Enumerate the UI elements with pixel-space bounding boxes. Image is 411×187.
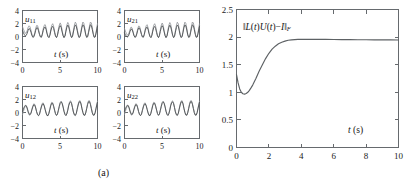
u21-curve-reference <box>125 25 200 38</box>
u21-ytick-m2: −2 <box>112 46 121 55</box>
u11-curve-reference <box>23 25 98 38</box>
u12-ytick-2: 2 <box>15 96 19 105</box>
u11-xtick-10: 10 <box>94 66 102 75</box>
figure-root: 4 2 0 −2 −4 0 5 10 u11 t (s) <box>0 0 411 187</box>
panelb-xtick-0: 0 <box>234 151 239 161</box>
subplot-u12: 4 2 0 −2 −4 0 5 10 u12 t (s) <box>2 80 102 156</box>
u22-ytick-m2: −2 <box>112 122 121 131</box>
u12-ytick-4: 4 <box>15 83 19 92</box>
u21-ytick-4: 4 <box>117 7 121 16</box>
subplot-u22: 4 2 0 −2 −4 0 5 10 u22 t (s) <box>104 80 204 156</box>
lu-residual-curve <box>237 39 399 94</box>
panelb-ytick-0: 0 <box>229 143 234 153</box>
u11-ytick-4: 4 <box>15 7 19 16</box>
subplot-u22-axes: 4 2 0 −2 −4 0 5 10 <box>104 80 204 156</box>
u11-ytick-m4: −4 <box>10 59 19 68</box>
subplot-u21: 4 2 0 −2 −4 0 5 10 u21 t (s) <box>104 4 204 80</box>
u22-xtick-10: 10 <box>196 142 204 151</box>
u11-ytick-2: 2 <box>15 20 19 29</box>
subplot-u22-xlabel: t (s) <box>156 126 170 135</box>
u12-xtick-10: 10 <box>94 142 102 151</box>
u12-xtick-0: 0 <box>21 142 25 151</box>
u22-ytick-0: 0 <box>117 109 121 118</box>
subplot-u12-axes: 4 2 0 −2 −4 0 5 10 <box>2 80 102 156</box>
u21-ytick-2: 2 <box>117 20 121 29</box>
panelb-xtick-10: 10 <box>394 151 404 161</box>
panelb-ytick-1: 1 <box>229 88 234 98</box>
subplot-u11-axes: 4 2 0 −2 −4 0 5 10 <box>2 4 102 80</box>
u22-xtick-0: 0 <box>123 142 127 151</box>
panelb-xtick-6: 6 <box>331 151 336 161</box>
u12-xtick-5: 5 <box>58 142 62 151</box>
panelb-ytick-2p5: 2.5 <box>222 5 234 15</box>
subplot-u12-xlabel: t (s) <box>54 126 68 135</box>
panelb-ytick-1p5: 1.5 <box>222 60 234 70</box>
u21-xtick-5: 5 <box>160 66 164 75</box>
panelb-ytick-0p5: 0.5 <box>222 115 234 125</box>
panelb-xtick-8: 8 <box>364 151 369 161</box>
panel-b-xlabel: t (s) <box>348 126 363 136</box>
panel-a-caption: (a) <box>0 168 207 178</box>
u21-ytick-0: 0 <box>117 33 121 42</box>
panel-a: 4 2 0 −2 −4 0 5 10 u11 t (s) <box>0 0 207 187</box>
u22-ytick-m4: −4 <box>112 135 121 144</box>
panelb-xtick-4: 4 <box>299 151 304 161</box>
subplot-u11-xlabel: t (s) <box>54 50 68 59</box>
u21-xtick-10: 10 <box>196 66 204 75</box>
subplot-u21-axes: 4 2 0 −2 −4 0 5 10 <box>104 4 204 80</box>
panelb-ytick-2: 2 <box>229 32 234 42</box>
panel-b: 2.5 2 1.5 1 0.5 0 0 2 4 6 8 10 ‖L(t)U(t)… <box>207 0 411 187</box>
u11-ytick-m2: −2 <box>10 46 19 55</box>
u21-ytick-m4: −4 <box>112 59 121 68</box>
subplot-u12-label: u12 <box>25 91 36 101</box>
subplot-u11-label: u11 <box>25 15 36 25</box>
u12-ytick-m4: −4 <box>10 135 19 144</box>
u11-xtick-0: 0 <box>21 66 25 75</box>
subplot-u11: 4 2 0 −2 −4 0 5 10 u11 t (s) <box>2 4 102 80</box>
subplot-u22-label: u22 <box>127 91 138 101</box>
panelb-xtick-2: 2 <box>267 151 272 161</box>
u21-xtick-0: 0 <box>123 66 127 75</box>
u22-ytick-4: 4 <box>117 83 121 92</box>
subplot-u21-xlabel: t (s) <box>156 50 170 59</box>
u22-ytick-2: 2 <box>117 96 121 105</box>
u11-ytick-0: 0 <box>15 33 19 42</box>
u11-xtick-5: 5 <box>58 66 62 75</box>
u12-ytick-0: 0 <box>15 109 19 118</box>
panel-b-axes: 2.5 2 1.5 1 0.5 0 0 2 4 6 8 10 <box>207 0 411 165</box>
u22-xtick-5: 5 <box>160 142 164 151</box>
panel-b-norm-label: ‖L(t)U(t)−I‖F <box>243 23 291 33</box>
subplot-u21-label: u21 <box>127 15 138 25</box>
u12-ytick-m2: −2 <box>10 122 19 131</box>
